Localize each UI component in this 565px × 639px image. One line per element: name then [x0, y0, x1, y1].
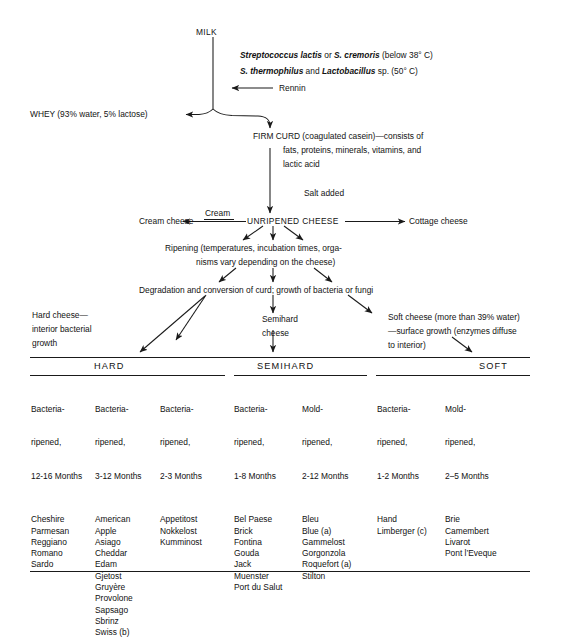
- label-salt-added: Salt added: [304, 188, 344, 199]
- group-heading-semihard: SEMIHARD: [257, 361, 314, 372]
- list-item: Reggiano: [31, 537, 82, 548]
- column-header-line3: 1-8 Months: [234, 471, 282, 482]
- column-header-line3: 1-2 Months: [377, 471, 427, 482]
- desc-hard-line1: Hard cheese—: [32, 310, 88, 321]
- desc-semihard-line1: Semihard: [262, 314, 298, 325]
- column-header-line2: ripened,: [31, 437, 82, 448]
- column-header-line2: ripened,: [377, 437, 427, 448]
- desc-soft-line2: —surface growth (enzymes diffuse: [388, 326, 517, 337]
- column-header-line1: Bacteria-: [234, 404, 282, 415]
- list-item: Muenster: [234, 571, 282, 582]
- column-header-line1: Bacteria-: [160, 404, 202, 415]
- node-firm-curd-line3: lactic acid: [283, 159, 320, 170]
- list-item: Kumminost: [160, 537, 202, 548]
- desc-soft-line1: Soft cheese (more than 39% water): [388, 312, 520, 323]
- column-header-line3: 2–5 Months: [445, 471, 497, 482]
- list-item: Fontina: [234, 537, 282, 548]
- desc-semihard-line2: cheese: [262, 328, 289, 339]
- node-unripened-cheese: UNRIPENED CHEESE: [247, 216, 339, 227]
- column-header-line2: ripened,: [302, 437, 351, 448]
- list-item: Port du Salut: [234, 582, 282, 593]
- list-item: Romano: [31, 548, 82, 559]
- organism-lactobacillus: Lactobacillus: [322, 66, 376, 76]
- label-rennin: Rennin: [279, 83, 306, 94]
- table-column-soft-1-2: Bacteria- ripened, 1-2 Months Hand Limbe…: [377, 381, 427, 537]
- column-header-line3: 12-16 Months: [31, 471, 82, 482]
- culture-conjunction-or: or: [322, 50, 334, 60]
- culture-line-2: S. thermophilus and Lactobacillus sp. (5…: [240, 66, 418, 77]
- desc-soft-line3: to interior): [388, 340, 426, 351]
- list-item: Hand: [377, 514, 427, 525]
- table-column-soft-2-5: Mold- ripened, 2–5 Months Brie Camembert…: [445, 381, 497, 559]
- list-item: American: [95, 514, 142, 525]
- node-cottage-cheese: Cottage cheese: [409, 216, 468, 227]
- column-header-line2: ripened,: [445, 437, 497, 448]
- cream-label-underline: [204, 219, 234, 220]
- column-header-line1: Mold-: [302, 404, 351, 415]
- list-item: Pont l’Eveque: [445, 548, 497, 559]
- list-item: Provolone: [95, 593, 142, 604]
- organism-s-thermophilus: S. thermophilus: [240, 66, 303, 76]
- node-ripening-line2: nisms vary depending on the cheese): [196, 257, 335, 268]
- list-item: Cheddar: [95, 548, 142, 559]
- group-heading-hard: HARD: [94, 361, 124, 372]
- list-item: Asiago: [95, 537, 142, 548]
- list-item: Cheshire: [31, 514, 82, 525]
- list-item: Sapsago: [95, 605, 142, 616]
- list-item: Nokkelost: [160, 526, 202, 537]
- column-header-line3: 2-3 Months: [160, 471, 202, 482]
- node-cream-cheese: Cream cheese: [139, 216, 193, 227]
- list-item: Brie: [445, 514, 497, 525]
- culture-temp-1: (below 38° C): [380, 50, 433, 60]
- list-item: Apple: [95, 526, 142, 537]
- group-rule-semihard: [234, 375, 367, 376]
- list-item: Bel Paese: [234, 514, 282, 525]
- list-item: Appetitost: [160, 514, 202, 525]
- node-degradation: Degradation and conversion of curd; grow…: [139, 285, 373, 296]
- list-item: Brick: [234, 526, 282, 537]
- list-item: Gorgonzola: [302, 548, 351, 559]
- list-item: Edam: [95, 559, 142, 570]
- list-item: Blue (a): [302, 526, 351, 537]
- list-item: Parmesan: [31, 526, 82, 537]
- node-whey: WHEY (93% water, 5% lactose): [30, 109, 148, 120]
- desc-hard-line3: growth: [32, 338, 57, 349]
- desc-hard-line2: interior bacterial: [32, 324, 92, 335]
- table-top-rule: [30, 357, 530, 358]
- table-column-hard-3-12: Bacteria- ripened, 3-12 Months American …: [95, 381, 142, 639]
- label-cream: Cream: [205, 208, 230, 219]
- table-bottom-rule: [30, 571, 530, 572]
- list-item: Jack: [234, 559, 282, 570]
- group-rule-soft: [376, 375, 530, 376]
- group-heading-soft: SOFT: [479, 361, 508, 372]
- column-header-line1: Bacteria-: [377, 404, 427, 415]
- culture-temp-2: sp. (50° C): [375, 66, 417, 76]
- organism-streptococcus-lactis: Streptococcus lactis: [240, 50, 322, 60]
- table-column-semihard-1-8: Bacteria- ripened, 1-8 Months Bel Paese …: [234, 381, 282, 593]
- table-column-semihard-2-12: Mold- ripened, 2-12 Months Bleu Blue (a)…: [302, 381, 351, 582]
- list-item: Swiss (b): [95, 627, 142, 638]
- organism-s-cremoris: S. cremoris: [334, 50, 380, 60]
- culture-conjunction-and: and: [303, 66, 322, 76]
- column-header-line1: Bacteria-: [95, 404, 142, 415]
- table-column-hard-12-16: Bacteria- ripened, 12-16 Months Cheshire…: [31, 381, 82, 571]
- node-milk: MILK: [196, 27, 217, 38]
- column-header-line1: Bacteria-: [31, 404, 82, 415]
- list-item: Limberger (c): [377, 526, 427, 537]
- list-item: Sbrinz: [95, 616, 142, 627]
- list-item: Gruyère: [95, 582, 142, 593]
- group-rule-hard: [30, 375, 225, 376]
- node-ripening-line1: Ripening (temperatures, incubation times…: [165, 243, 342, 254]
- column-header-line2: ripened,: [234, 437, 282, 448]
- column-header-line1: Mold-: [445, 404, 497, 415]
- list-item: Stilton: [302, 571, 351, 582]
- node-firm-curd-line1: FIRM CURD (coagulated casein)—consists o…: [253, 131, 423, 142]
- list-item: Gammelost: [302, 537, 351, 548]
- list-item: Gjetost: [95, 571, 142, 582]
- column-header-line3: 2-12 Months: [302, 471, 351, 482]
- culture-line-1: Streptococcus lactis or S. cremoris (bel…: [240, 50, 433, 61]
- column-header-line3: 3-12 Months: [95, 471, 142, 482]
- column-header-line2: ripened,: [160, 437, 202, 448]
- column-header-line2: ripened,: [95, 437, 142, 448]
